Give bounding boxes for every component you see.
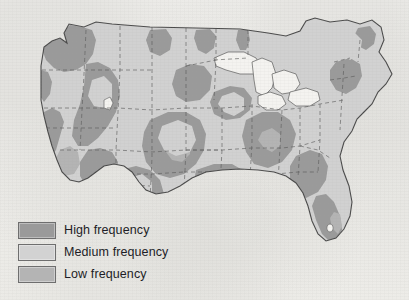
legend-row-low: Low frequency [18,265,168,284]
swatch-medium [18,244,56,261]
legend-label-medium: Medium frequency [64,246,168,259]
legend-row-high: High frequency [18,221,168,240]
figure-canvas: High frequency Medium frequency Low freq… [0,0,409,300]
lake-okeechobee [327,224,333,232]
swatch-high [18,222,56,239]
legend-label-high: High frequency [64,224,149,237]
swatch-low [18,266,56,283]
legend-label-low: Low frequency [64,268,147,281]
legend-row-medium: Medium frequency [18,243,168,262]
frequency-legend: High frequency Medium frequency Low freq… [18,221,168,284]
